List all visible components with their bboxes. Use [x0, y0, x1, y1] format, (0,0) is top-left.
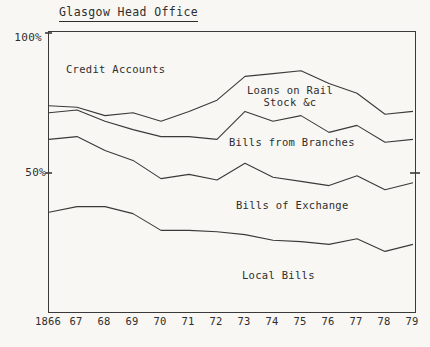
- x-axis-tick-labels: 186667686970717273747576777879: [48, 315, 416, 329]
- chart-title: Glasgow Head Office: [59, 5, 198, 22]
- x-tick-label-68: 68: [97, 315, 110, 327]
- scanned-chart-page: Glasgow Head Office 100% 50% Credit Acco…: [0, 0, 430, 347]
- x-tick-label-76: 76: [321, 315, 334, 327]
- x-tick-label-74: 74: [265, 315, 278, 327]
- x-tick-label-67: 67: [69, 315, 82, 327]
- boundary-local-bills-top: [49, 207, 413, 252]
- band-label-local-bills: Local Bills: [242, 269, 315, 281]
- x-tick-label-71: 71: [181, 315, 194, 327]
- boundary-loans-on-rail-stock-c-top: [49, 71, 413, 121]
- band-label-loans-line2: Stock &c: [238, 96, 342, 108]
- y-axis-label-100: 100%: [10, 31, 42, 44]
- x-tick-label-79: 79: [405, 315, 418, 327]
- x-tick-label-73: 73: [237, 315, 250, 327]
- band-label-credit-accounts: Credit Accounts: [66, 63, 165, 75]
- band-label-loans-on-rail: Loans on Rail Stock &c: [238, 84, 342, 108]
- x-tick-label-69: 69: [125, 315, 138, 327]
- band-label-bills-of-exchange: Bills of Exchange: [236, 199, 349, 211]
- y-axis-label-50: 50%: [14, 166, 46, 179]
- x-tick-label-70: 70: [153, 315, 166, 327]
- x-tick-label-77: 77: [349, 315, 362, 327]
- x-tick-label-75: 75: [293, 315, 306, 327]
- x-tick-label-72: 72: [209, 315, 222, 327]
- x-tick-label-1866: 1866: [35, 315, 61, 327]
- x-tick-label-78: 78: [377, 315, 390, 327]
- band-label-loans-line1: Loans on Rail: [238, 84, 342, 96]
- band-label-bills-from-branches: Bills from Branches: [229, 136, 355, 148]
